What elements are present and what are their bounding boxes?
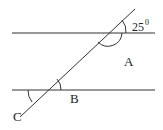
degree-symbol: 0 xyxy=(145,18,149,27)
angle-label-a: A xyxy=(124,54,134,69)
point-label-c: C xyxy=(13,109,22,124)
angle-arc-c xyxy=(28,90,32,102)
geometry-diagram: 25 0 A B C xyxy=(0,0,163,130)
angle-label-25: 25 xyxy=(132,20,144,34)
angle-arc-25 xyxy=(122,20,126,33)
angle-label-b: B xyxy=(70,91,79,106)
angle-arc-a xyxy=(98,33,122,46)
